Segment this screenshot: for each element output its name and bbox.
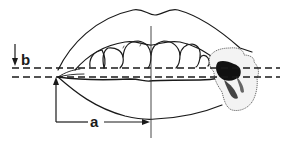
measurement-b	[12, 44, 18, 66]
lesion	[209, 48, 258, 111]
label-a: a	[89, 114, 99, 129]
label-b: b	[21, 52, 30, 67]
upper-lip-inner	[75, 41, 214, 70]
commissure-lines	[58, 69, 84, 77]
lip-diagram	[0, 0, 289, 141]
lower-lip-outline	[58, 77, 222, 119]
